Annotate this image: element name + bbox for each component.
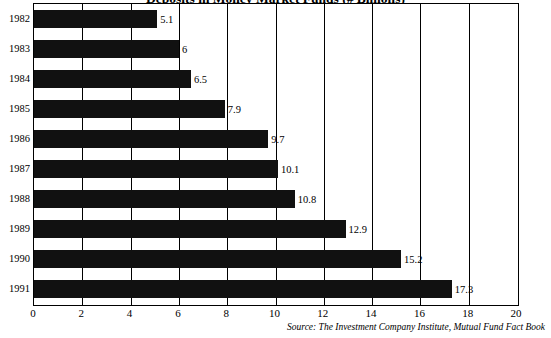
plot-area: 5.166.57.99.710.110.812.915.217.3 <box>33 3 519 306</box>
bar-value-label: 12.9 <box>346 224 367 235</box>
y-axis-tick-label: 1989 <box>0 223 30 234</box>
bar-row: 5.1 <box>34 10 518 28</box>
y-axis-tick-label: 1986 <box>0 133 30 144</box>
x-axis-tick-label: 4 <box>127 307 133 319</box>
chart-container: Deposits in Money Market Funds (# Billio… <box>0 0 551 338</box>
bar-value-label: 5.1 <box>157 14 173 25</box>
bar-row: 7.9 <box>34 100 518 118</box>
x-axis-tick-label: 10 <box>269 307 280 319</box>
x-axis-tick-labels: 02468101214161820 <box>33 307 519 323</box>
y-axis-tick-label: 1988 <box>0 193 30 204</box>
source-note: Source: The Investment Company Institute… <box>0 322 545 332</box>
bar <box>34 190 295 208</box>
x-axis-tick-label: 14 <box>366 307 377 319</box>
x-axis-tick-label: 6 <box>175 307 181 319</box>
bar-row: 9.7 <box>34 130 518 148</box>
bar <box>34 250 401 268</box>
bar-value-label: 10.8 <box>295 194 316 205</box>
bar-value-label: 7.9 <box>225 104 241 115</box>
y-axis-tick-labels: 1982198319841985198619871988198919901991 <box>0 3 30 306</box>
bar-row: 6 <box>34 40 518 58</box>
x-axis-tick-label: 12 <box>317 307 328 319</box>
bar-row: 12.9 <box>34 220 518 238</box>
y-axis-tick-label: 1982 <box>0 13 30 24</box>
x-axis-tick-label: 2 <box>79 307 85 319</box>
bar-row: 6.5 <box>34 70 518 88</box>
bar-value-label: 10.1 <box>278 164 299 175</box>
y-axis-tick-label: 1990 <box>0 253 30 264</box>
bar <box>34 160 278 178</box>
bar-row: 15.2 <box>34 250 518 268</box>
bar <box>34 10 157 28</box>
bar-row: 10.1 <box>34 160 518 178</box>
bar <box>34 100 225 118</box>
y-axis-tick-label: 1983 <box>0 43 30 54</box>
y-axis-tick-label: 1985 <box>0 103 30 114</box>
bar-value-label: 15.2 <box>401 254 422 265</box>
bar <box>34 220 346 238</box>
bar <box>34 70 191 88</box>
y-axis-tick-label: 1984 <box>0 73 30 84</box>
bar-value-label: 6 <box>179 44 187 55</box>
bar-value-label: 6.5 <box>191 74 207 85</box>
bar <box>34 130 268 148</box>
bar-value-label: 17.3 <box>452 284 473 295</box>
y-axis-tick-label: 1991 <box>0 283 30 294</box>
bar-value-label: 9.7 <box>268 134 284 145</box>
x-axis-tick-label: 8 <box>223 307 229 319</box>
x-axis-tick-label: 18 <box>462 307 473 319</box>
bar-row: 10.8 <box>34 190 518 208</box>
bar-row: 17.3 <box>34 280 518 298</box>
y-axis-tick-label: 1987 <box>0 163 30 174</box>
x-axis-tick-label: 0 <box>30 307 36 319</box>
plot-inner: 5.166.57.99.710.110.812.915.217.3 <box>34 4 518 305</box>
x-axis-tick-label: 20 <box>511 307 522 319</box>
bar <box>34 280 452 298</box>
x-axis-tick-label: 16 <box>414 307 425 319</box>
bar <box>34 40 179 58</box>
